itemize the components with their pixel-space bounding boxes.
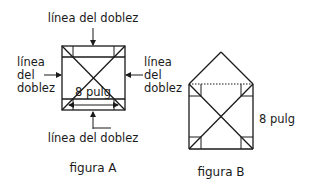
figure-a-right-label-line3: doblez [144,81,182,95]
figure-a-measurement: 8 pulg [75,85,111,99]
figure-a-left-label-line1: línea [17,55,45,69]
figure-b-caption: figura B [197,165,244,179]
figure-a-top-fold-label: línea del doblez [48,11,139,25]
figure-a-left-label-line3: doblez [17,81,55,95]
figure-a: línea del doblez 8 pulg línea del doblez… [17,11,182,175]
figure-a-right-label-line2: del [144,68,162,82]
figure-a-right-label-line1: línea [144,55,172,69]
figure-a-caption: figura A [69,161,117,175]
fold-diagram: línea del doblez 8 pulg línea del doblez… [0,0,309,187]
figure-b-roof-left [189,52,221,84]
figure-b-measurement: 8 pulg [259,112,295,126]
figure-a-bottom-fold-label: línea del doblez [48,131,139,145]
figure-b: 8 pulg figura B [189,52,295,179]
figure-a-left-label-line2: del [17,68,35,82]
figure-b-roof-right [221,52,253,84]
